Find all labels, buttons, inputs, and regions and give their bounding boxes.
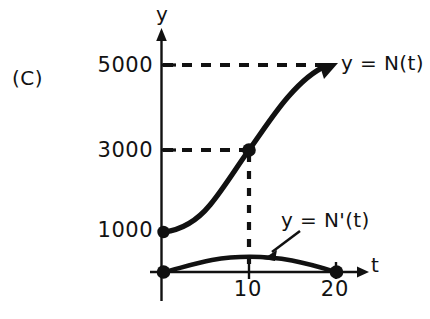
part-label: (C) <box>12 68 43 88</box>
y-tick-label-3000: 3000 <box>83 140 153 161</box>
y-axis-label: y <box>156 4 168 24</box>
x-tick-label-20: 20 <box>313 279 357 300</box>
marker-n-inflection <box>242 143 256 157</box>
x-tick-label-10: 10 <box>226 279 270 300</box>
curve-label-n-of-t: y = N(t) <box>341 53 424 73</box>
curve-label-n-prime-of-t: y = N'(t) <box>281 210 370 230</box>
curve-n-arrowhead <box>319 63 338 79</box>
annotation-arrow-nprime <box>263 231 300 261</box>
guide-lines <box>163 65 322 268</box>
marker-nprime-start <box>157 265 171 279</box>
marker-n-start <box>157 226 169 238</box>
plot-canvas <box>0 0 430 319</box>
t-axis-label: t <box>371 255 379 275</box>
y-tick-label-1000: 1000 <box>83 220 153 241</box>
figure-panel: (C) 5000 3000 1000 10 20 y t y = N(t) y … <box>0 0 430 319</box>
y-tick-label-5000: 5000 <box>83 55 153 76</box>
y-axis <box>156 28 167 301</box>
